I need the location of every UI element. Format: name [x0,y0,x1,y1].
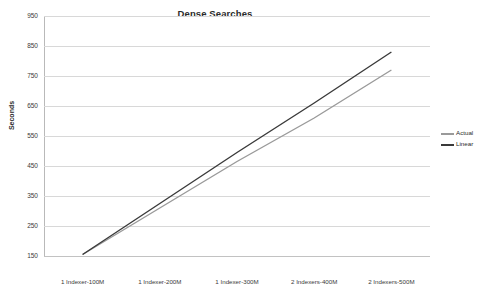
legend: Actual Linear [441,128,473,150]
series-lines [44,16,430,256]
series-line-linear [83,52,392,255]
y-tick-label: 650 [4,102,38,109]
legend-color-swatch-linear [441,144,454,146]
plot-area: 1 Indexer-100M1 Indexer-200M1 Indexer-30… [44,16,430,256]
y-tick-label: 250 [4,222,38,229]
x-tick-label: 1 Indexer-200M [138,278,181,285]
y-tick-label: 850 [4,42,38,49]
legend-item-linear[interactable]: Linear [441,139,473,150]
x-tick-label: 1 Indexer-100M [61,278,104,285]
y-tick-label: 450 [4,162,38,169]
legend-item-actual[interactable]: Actual [441,128,473,139]
legend-color-swatch-actual [441,133,454,135]
legend-label-actual: Actual [456,130,473,136]
y-tick-label: 350 [4,192,38,199]
y-tick-label: 150 [4,252,38,259]
y-tick-label: 550 [4,132,38,139]
x-tick-label: 1 Indexer-300M [215,278,258,285]
y-tick-label: 750 [4,72,38,79]
series-line-actual [83,70,392,255]
chart-container: Dense Searches Seconds 95085075065055045… [0,0,487,288]
y-tick-label: 950 [4,12,38,19]
gridline [44,256,430,257]
legend-label-linear: Linear [456,141,473,147]
x-tick-label: 2 Indexers-400M [291,278,337,285]
x-tick-label: 2 Indexers-500M [368,278,414,285]
